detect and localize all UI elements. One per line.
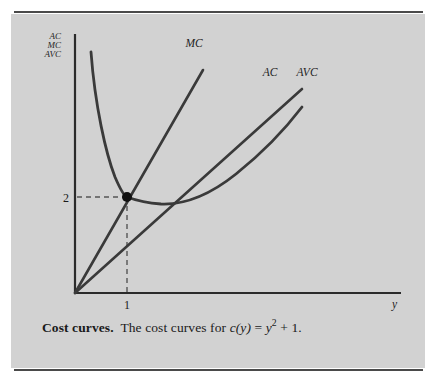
y-tick-label-2: 2 — [63, 191, 69, 205]
curve-mc — [75, 70, 203, 293]
caption-equals: = — [251, 320, 266, 335]
caption-function: c(y) — [230, 320, 251, 335]
axis-label-y: y — [391, 298, 398, 311]
caption-body-prefix: The cost curves for — [120, 320, 229, 335]
cost-curves-plot: AC MC AVC y 2 1 MC AC AVC — [11, 14, 425, 314]
minimum-ac-point-marker — [122, 192, 132, 202]
axis-label-avc: AVC — [43, 49, 62, 59]
axes-group — [75, 34, 401, 293]
x-tick-label-1: 1 — [124, 298, 130, 312]
curve-label-avc: AVC — [295, 66, 317, 78]
figure-caption: Cost curves. The cost curves for c(y) = … — [42, 317, 412, 336]
top-rule — [14, 11, 423, 13]
curve-label-mc: MC — [184, 37, 203, 49]
figure-panel: AC MC AVC y 2 1 MC AC AVC — [11, 14, 425, 368]
curve-label-ac: AC — [262, 66, 278, 78]
caption-lead: Cost curves. — [42, 320, 114, 335]
bottom-rule — [14, 369, 423, 371]
figure-page: AC MC AVC y 2 1 MC AC AVC — [0, 0, 437, 384]
vertical-axis-label-group: AC MC AVC — [43, 31, 62, 59]
caption-tail: + 1. — [277, 320, 302, 335]
curve-avc — [75, 89, 302, 293]
